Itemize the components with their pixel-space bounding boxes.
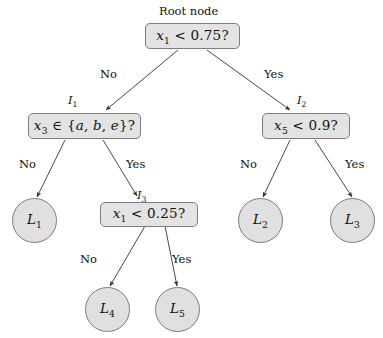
leaf-l4-label: L4: [100, 300, 115, 319]
leaf-l5-label: L5: [170, 300, 185, 319]
node-root[interactable]: x1 < 0.75?: [145, 23, 240, 49]
leaf-l2-label: L2: [253, 211, 268, 230]
leaf-l1-label: L1: [27, 211, 42, 230]
tree-edges: [0, 0, 383, 338]
leaf-l1[interactable]: L1: [12, 198, 57, 243]
edge-label-i2-right: Yes: [345, 157, 364, 171]
leaf-l3-label: L3: [345, 211, 360, 230]
leaf-l4[interactable]: L4: [85, 287, 130, 332]
node-i1-condition: x3 ∈ {a, b, e}?: [34, 117, 135, 136]
node-i2-condition: x5 < 0.9?: [274, 117, 338, 136]
edge-label-i2-left: No: [240, 157, 257, 171]
node-root-condition: x1 < 0.75?: [156, 27, 229, 46]
leaf-l3[interactable]: L3: [330, 198, 375, 243]
node-i2[interactable]: x5 < 0.9?: [262, 113, 350, 139]
node-i3[interactable]: x1 < 0.25?: [100, 202, 198, 227]
leaf-l2[interactable]: L2: [238, 198, 283, 243]
edge-label-i3-right: Yes: [172, 252, 191, 266]
root-node-caption: Root node: [159, 4, 218, 18]
node-tag-i1: I1: [68, 93, 78, 109]
edge-label-root-left: No: [100, 67, 117, 81]
node-i1[interactable]: x3 ∈ {a, b, e}?: [28, 113, 141, 139]
edge-label-root-right: Yes: [264, 67, 283, 81]
edge-label-i1-right: Yes: [126, 157, 145, 171]
node-tag-i2: I2: [297, 93, 307, 109]
edge-i2-to-l2: [263, 140, 290, 197]
node-i3-condition: x1 < 0.25?: [113, 205, 186, 224]
edge-i1-to-l1: [37, 140, 65, 197]
edge-label-i1-left: No: [19, 157, 36, 171]
edge-i3-to-l4: [110, 226, 145, 286]
decision-tree-diagram: Root node x1 < 0.75? No Yes I1 x3 ∈ {a, …: [0, 0, 383, 338]
edge-label-i3-left: No: [80, 252, 97, 266]
leaf-l5[interactable]: L5: [155, 287, 200, 332]
